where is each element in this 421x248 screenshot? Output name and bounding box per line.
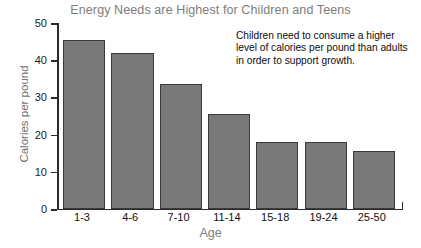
y-axis-tick-label-20: 20	[7, 130, 47, 141]
chart-annotation: Children need to consume a higher level …	[236, 30, 408, 67]
bar-15-18	[256, 142, 298, 209]
y-axis-tick-label-50: 50	[7, 18, 47, 29]
bar-slot-1	[111, 23, 153, 209]
bar-11-14	[208, 114, 250, 209]
bar-25-50	[353, 151, 395, 209]
x-axis-tick-label-3: 11-14	[203, 212, 251, 223]
x-axis-tick-label-6: 25-50	[348, 212, 396, 223]
bar-7-10	[160, 84, 202, 209]
y-axis-tick-label-10: 10	[7, 167, 47, 178]
bar-slot-0	[63, 23, 105, 209]
x-axis-tick-label-2: 7-10	[155, 212, 203, 223]
x-axis-tick-label-1: 4-6	[106, 212, 154, 223]
y-axis-tick-label-40: 40	[7, 55, 47, 66]
y-axis-tick-label-30: 30	[7, 92, 47, 103]
bar-19-24	[305, 142, 347, 209]
x-axis-tick-label-4: 15-18	[251, 212, 299, 223]
x-axis-tick-label-0: 1-3	[58, 212, 106, 223]
bar-slot-2	[160, 23, 202, 209]
y-axis-tick-label-0: 0	[7, 204, 47, 215]
x-axis-title: Age	[0, 226, 421, 240]
bar-chart-figure: Energy Needs are Highest for Children an…	[0, 0, 421, 248]
chart-title: Energy Needs are Highest for Children an…	[0, 3, 421, 17]
x-axis-tick-label-5: 19-24	[300, 212, 348, 223]
bar-4-6	[111, 53, 153, 209]
bar-1-3	[63, 40, 105, 209]
